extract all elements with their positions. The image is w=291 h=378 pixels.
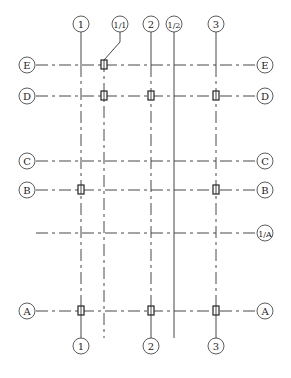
svg-text:D: D <box>261 91 269 102</box>
axis-bubble-top-2: 2 <box>143 16 159 32</box>
svg-text:B: B <box>261 185 268 196</box>
row-bubble-left-A: A <box>19 303 35 319</box>
left-row-bubbles: E D C B A <box>19 57 35 319</box>
svg-text:D: D <box>23 91 31 102</box>
svg-text:2: 2 <box>148 341 154 352</box>
svg-text:3: 3 <box>213 19 219 30</box>
col-line-1-1-leader-diag <box>104 42 120 60</box>
row-bubble-left-D: D <box>19 88 35 104</box>
axis-bubble-top-3: 3 <box>208 16 224 32</box>
svg-text:E: E <box>261 60 268 71</box>
svg-text:C: C <box>261 156 269 167</box>
svg-text:1/2: 1/2 <box>168 21 181 30</box>
column-box-3-A <box>213 306 219 315</box>
svg-text:1/A: 1/A <box>258 230 272 239</box>
column-box-1-B <box>78 185 84 194</box>
svg-text:1/1: 1/1 <box>114 21 127 30</box>
axis-bubble-bottom-2: 2 <box>143 338 159 354</box>
row-bubble-left-B: B <box>19 182 35 198</box>
column-boxes <box>78 60 219 315</box>
row-bubble-left-C: C <box>19 153 35 169</box>
svg-text:2: 2 <box>148 19 154 30</box>
svg-text:B: B <box>23 185 30 196</box>
bottom-axis-bubbles: 1 2 3 <box>73 338 224 354</box>
svg-text:A: A <box>260 306 269 317</box>
top-axis-bubbles: 1 1/1 2 1/2 3 <box>73 16 224 32</box>
column-box-3-D <box>213 91 219 100</box>
row-bubble-right-C: C <box>257 153 273 169</box>
column-box-2-A <box>148 306 154 315</box>
axis-bubble-top-1-2: 1/2 <box>166 16 182 32</box>
svg-text:1: 1 <box>78 19 84 30</box>
column-box-2-D <box>148 91 154 100</box>
column-grid-lines <box>81 32 216 338</box>
svg-text:E: E <box>23 60 30 71</box>
svg-text:1: 1 <box>78 341 84 352</box>
row-grid-lines <box>36 65 257 311</box>
axis-bubble-top-1-1: 1/1 <box>112 16 128 32</box>
svg-text:C: C <box>23 156 31 167</box>
column-box-1-A <box>78 306 84 315</box>
row-bubble-left-E: E <box>19 57 35 73</box>
row-bubble-right-B: B <box>257 182 273 198</box>
column-box-1-1-D <box>101 91 107 100</box>
axis-bubble-bottom-3: 3 <box>208 338 224 354</box>
svg-text:3: 3 <box>213 341 219 352</box>
column-box-3-B <box>213 185 219 194</box>
row-bubble-right-1A: 1/A <box>257 225 273 241</box>
axis-bubble-top-1: 1 <box>73 16 89 32</box>
row-bubble-right-D: D <box>257 88 273 104</box>
axis-bubble-bottom-1: 1 <box>73 338 89 354</box>
row-bubble-right-A: A <box>257 303 273 319</box>
row-bubble-right-E: E <box>257 57 273 73</box>
column-box-1-1-E <box>101 60 107 69</box>
structural-grid-drawing: 1 1/1 2 1/2 3 1 2 3 <box>0 0 291 378</box>
svg-text:A: A <box>22 306 31 317</box>
right-row-bubbles: E D C B 1/A A <box>257 57 273 319</box>
